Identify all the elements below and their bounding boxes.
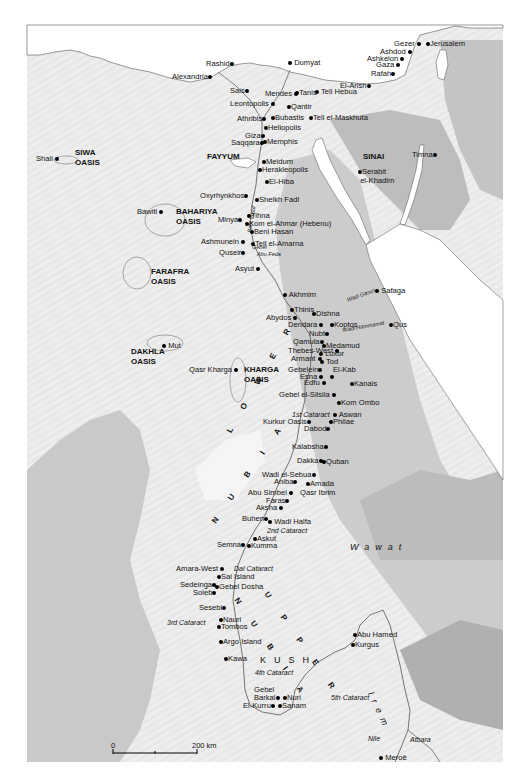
place-quseir: Quseir <box>219 249 245 257</box>
feature-nile: Nile <box>368 735 380 742</box>
place-sheikh-fadl: Sheikh Fadl <box>255 196 299 204</box>
place-saqqara: Saqqara <box>231 139 264 147</box>
place-rafah: Rafah <box>371 70 395 78</box>
feature-3rd-cataract: 3rd Cataract <box>167 619 206 626</box>
place-kawa: Kawa <box>224 655 247 663</box>
place-amara-west: Amara-West <box>176 565 224 573</box>
place-alexandria: Alexandria <box>172 73 212 81</box>
place-tell-el-maskhuta: Tell el-Maskhuta <box>309 114 368 122</box>
place-abu-hamed: Abu Hamed <box>353 631 397 639</box>
region-fayyum: FAYYUM <box>207 152 240 162</box>
place-tell-hebua: Tell Hebua <box>315 88 357 96</box>
place-semna: Semna <box>217 541 245 549</box>
place-memphis: Memphis <box>263 138 298 146</box>
feature-5th-cataract: 5th Cataract <box>331 694 369 701</box>
place-sais: Sais <box>230 87 249 95</box>
place-timna: Timna <box>412 151 437 159</box>
place-aniba: Aniba <box>274 478 297 486</box>
place-kanais: Kanais <box>350 380 377 388</box>
place-heliopolis: Heliopolis <box>264 124 301 132</box>
region-siwa-oasis: SIWAOASIS <box>75 148 100 168</box>
place-kom-ombo: Kom Ombo <box>337 399 379 407</box>
place-qamula: Qamula <box>293 338 324 346</box>
place-gebel-dosha: Gebel Dosha <box>215 583 263 591</box>
place-dishna: Dishna <box>312 310 340 318</box>
place-herakleopolis: Herakleopolis <box>258 166 308 174</box>
scale-start-label: 0 <box>111 741 115 750</box>
place-rashid: Rashid <box>206 60 234 68</box>
place-soleb: Soleb <box>193 589 216 597</box>
place-kumma: Kumma <box>247 542 277 550</box>
place-tombos: Tombos <box>217 623 248 631</box>
place-el-kab: El-Kab <box>333 366 356 374</box>
place-serabit-el-khadim: Serabit el-Khadim <box>358 168 394 185</box>
place-gebel-el-silsila: Gebel el-Silsila <box>279 391 336 399</box>
place-kalabsha: Kalabsha <box>292 443 328 451</box>
place-wadi-halfa: Wadi Halfa <box>268 518 311 526</box>
place-asyut: Asyut <box>235 265 260 273</box>
place-shali: Shali <box>36 155 59 163</box>
region-wawat: Wawat <box>350 542 407 552</box>
feature-2nd-cataract: 2nd Cataract <box>267 527 307 534</box>
place-el-hiba: El-Hiba <box>265 178 294 186</box>
place-tell-el-amarna: Tell el-Amarna <box>251 240 304 248</box>
place-buhen: Buhen <box>242 515 268 523</box>
place-dendara: Dendara <box>288 321 323 329</box>
place-qasr-ibrim: Qasr Ibrim <box>300 489 335 497</box>
place-koptos: Koptos <box>330 321 358 329</box>
place-beni-hasan: Beni Hasan <box>250 228 293 236</box>
feature-4th-cataract: 4th Cataract <box>255 669 293 676</box>
region-bahariya-oasis: BAHARIYAOASIS <box>176 207 218 227</box>
place-armant: Armant <box>291 355 322 363</box>
place-el-kurru: El-Kurru <box>243 702 275 710</box>
place-qasr-kharga: Qasr Kharga <box>189 366 238 374</box>
place-ashmunein: Ashmunein <box>201 238 245 246</box>
place-akhmim: Akhmim <box>283 291 316 299</box>
place-qantir: Qantir <box>287 103 312 111</box>
region-sinai: SINAI <box>363 152 384 162</box>
place-gaza: Gaza <box>376 61 400 69</box>
place-sanam: Sanam <box>278 702 306 710</box>
feature-dal-cataract: Dal Cataract <box>234 565 273 572</box>
place-argo-island: Argo Island <box>219 638 261 646</box>
place-thinis: Thinis <box>290 306 314 314</box>
place-oxyrhynkhos: Oxyrhynkhos <box>200 192 248 200</box>
place-tanis: Tanis <box>295 89 317 97</box>
feature-atbara: Atbara <box>410 736 431 743</box>
place-mendes: Mendes <box>265 90 298 98</box>
place-dakka: Dakka <box>297 457 323 465</box>
scale-end-label: 200 km <box>192 741 217 750</box>
place-bubastis: Bubastis <box>271 114 304 122</box>
place-kurgus: Kurgus <box>351 641 379 649</box>
place-mut: Mut <box>162 342 181 350</box>
region-farafra-oasis: FARAFRAOASIS <box>151 267 189 287</box>
region-dakhla-oasis: DAKHLAOASIS <box>131 347 165 367</box>
place-dabod: Dabod <box>304 425 330 433</box>
place-safaga: Safaga <box>375 287 405 295</box>
place-meroe: Meroë <box>379 754 407 762</box>
place-athribis: Athribis <box>237 115 266 123</box>
feature-gebel-abu-feda-2: Abu Feda <box>257 251 281 257</box>
place-aksha: Aksha <box>256 504 283 512</box>
place-sesebi: Sesebi <box>199 604 226 612</box>
place-quban: Quban <box>322 458 349 466</box>
place-philae: Philae <box>329 418 354 426</box>
place-minya: Minya <box>218 216 242 224</box>
place-jerusalem: Jerusalem <box>426 40 465 48</box>
place-leontopolis: Leontopolis <box>230 100 275 108</box>
place-sai-island: Sai Island <box>217 573 254 581</box>
place-edfu: Edfu <box>304 379 326 387</box>
place-dumyat: Dumyat <box>288 59 320 67</box>
place-bawiti: Bawiti <box>137 208 163 216</box>
place-amada: Amada <box>306 480 334 488</box>
place-qus: Qus <box>389 321 407 329</box>
